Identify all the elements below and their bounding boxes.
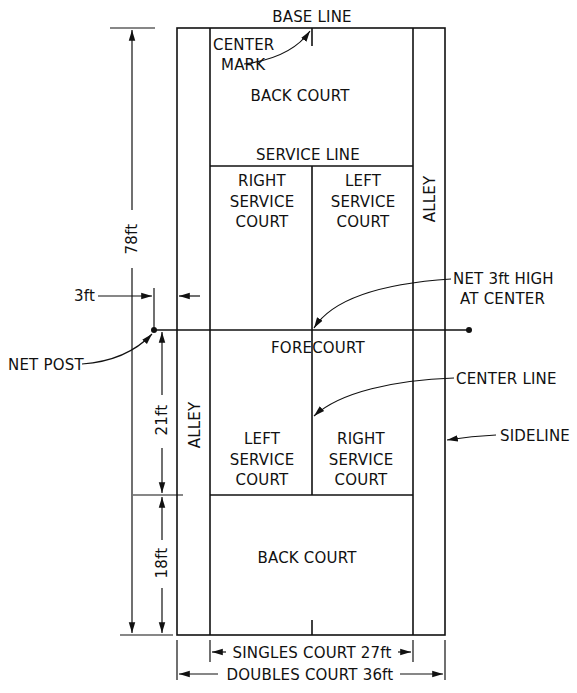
label-center-mark-2: MARK: [221, 56, 266, 74]
label-center-line: CENTER LINE: [456, 370, 557, 388]
net-post-arrow: [82, 334, 152, 364]
label-3ft: 3ft: [74, 287, 95, 305]
label-alley-left: ALLEY: [186, 401, 204, 448]
label-left-service-top-1: LEFT: [345, 172, 382, 190]
label-right-service-bottom-3: COURT: [335, 471, 388, 489]
label-21ft: 21ft: [153, 405, 171, 436]
label-right-service-top-3: COURT: [236, 213, 289, 231]
label-singles: SINGLES COURT 27ft: [232, 644, 391, 662]
sideline-arrow: [447, 435, 496, 440]
label-right-service-top-1: RIGHT: [238, 172, 287, 190]
label-sideline: SIDELINE: [500, 427, 570, 445]
label-left-service-bottom-2: SERVICE: [230, 451, 295, 469]
label-forecourt: FORECOURT: [271, 339, 366, 357]
label-left-service-top-3: COURT: [337, 213, 390, 231]
label-base-line: BASE LINE: [272, 8, 352, 26]
label-net-post: NET POST: [8, 356, 84, 374]
dim-21ft-18ft: 21ft 18ft: [120, 332, 183, 635]
dim-78ft: 78ft: [110, 28, 155, 633]
label-left-service-top-2: SERVICE: [331, 193, 396, 211]
doubles-court-outline: [177, 28, 445, 635]
label-right-service-bottom-2: SERVICE: [329, 451, 394, 469]
net-post-right: [466, 327, 472, 333]
court-lines: [151, 28, 472, 635]
label-back-court-top: BACK COURT: [250, 87, 350, 105]
label-service-line: SERVICE LINE: [256, 146, 360, 164]
label-net-1: NET 3ft HIGH: [453, 270, 554, 288]
label-alley-right: ALLEY: [421, 175, 439, 222]
label-right-service-bottom-1: RIGHT: [337, 430, 386, 448]
label-78ft: 78ft: [123, 224, 141, 255]
label-net-2: AT CENTER: [460, 290, 545, 308]
label-center-mark-1: CENTER: [213, 36, 274, 54]
net-arrow: [314, 279, 451, 328]
label-doubles: DOUBLES COURT 36ft: [227, 666, 394, 684]
dim-widths: SINGLES COURT 27ft DOUBLES COURT 36ft: [177, 640, 445, 684]
label-18ft: 18ft: [153, 548, 171, 579]
label-right-service-top-2: SERVICE: [230, 193, 295, 211]
tennis-court-diagram: BASE LINE CENTER MARK BACK COURT SERVICE…: [0, 0, 577, 693]
label-left-service-bottom-3: COURT: [236, 471, 289, 489]
label-back-court-bottom: BACK COURT: [257, 549, 357, 567]
label-left-service-bottom-1: LEFT: [244, 430, 281, 448]
center-line-arrow: [314, 378, 454, 416]
